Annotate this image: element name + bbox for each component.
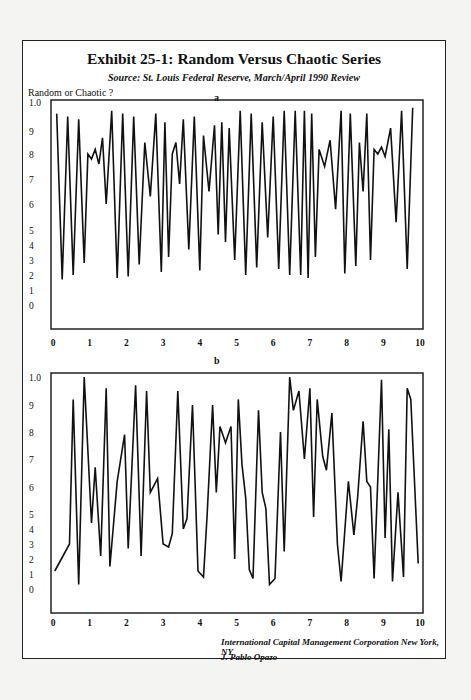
y-tick-label: 6	[29, 483, 34, 493]
x-tick-label: 4	[197, 618, 202, 628]
y-tick-label: 1.0	[29, 373, 41, 383]
x-tick-label: 7	[308, 618, 313, 628]
x-tick-label: 8	[344, 338, 349, 348]
y-tick-label: 4	[29, 525, 34, 535]
x-tick-label: 1	[87, 338, 92, 348]
y-tick-label: 9	[29, 401, 34, 411]
x-tick-label: 10	[415, 618, 425, 628]
y-tick-label: 3	[29, 540, 34, 550]
y-tick-label: 5	[29, 510, 34, 520]
x-tick-label: 10	[415, 338, 425, 348]
y-tick-label: 0	[29, 585, 34, 595]
x-tick-label: 8	[344, 618, 349, 628]
x-tick-label: 2	[124, 618, 129, 628]
y-tick-label: 4	[29, 241, 34, 251]
x-tick-label: 3	[161, 618, 166, 628]
y-tick-label: 0	[29, 301, 34, 311]
x-tick-label: 3	[161, 338, 166, 348]
y-tick-label: 1	[29, 570, 34, 580]
y-tick-label: 1	[29, 286, 34, 296]
x-tick-label: 9	[381, 338, 386, 348]
series-line-b	[55, 377, 418, 585]
series-line-a	[57, 108, 413, 280]
y-tick-label: 8	[29, 150, 34, 160]
x-tick-label: 7	[308, 338, 313, 348]
y-tick-label: 7	[29, 455, 34, 465]
x-tick-label: 0	[51, 338, 56, 348]
x-tick-label: 1	[87, 618, 92, 628]
exhibit-frame: Exhibit 25-1: Random Versus Chaotic Seri…	[22, 40, 446, 659]
y-tick-label: 2	[29, 271, 34, 281]
x-tick-label: 6	[271, 338, 276, 348]
y-tick-label: 1.0	[29, 98, 41, 108]
y-tick-label: 5	[29, 226, 34, 236]
x-tick-label: 5	[234, 338, 239, 348]
x-tick-label: 6	[271, 618, 276, 628]
y-tick-label: 8	[29, 428, 34, 438]
x-tick-label: 5	[234, 618, 239, 628]
y-tick-label: 7	[29, 175, 34, 185]
y-tick-label: 2	[29, 555, 34, 565]
x-tick-label: 9	[381, 618, 386, 628]
x-tick-label: 0	[51, 618, 56, 628]
y-tick-label: 6	[29, 200, 34, 210]
x-tick-label: 4	[197, 338, 202, 348]
charts-canvas: 1.098765432100123456789101.0987654321001…	[23, 41, 447, 660]
y-tick-label: 3	[29, 256, 34, 266]
y-tick-label: 9	[29, 127, 34, 137]
footer-author: J. Pablo Opazo	[221, 652, 277, 662]
x-tick-label: 2	[124, 338, 129, 348]
